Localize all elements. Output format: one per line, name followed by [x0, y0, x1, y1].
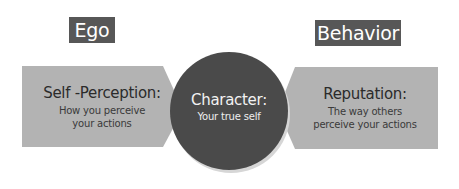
- self-perception-description: How you perceive your actions: [22, 104, 182, 130]
- self-perception-description-line1: How you perceive: [22, 104, 182, 117]
- reputation-text: Reputation: The way others perceive your…: [292, 85, 438, 131]
- reputation-description-line2: perceive your actions: [292, 118, 438, 131]
- behavior-label: Behavior: [315, 20, 401, 46]
- self-perception-title: Self -Perception:: [22, 84, 182, 102]
- self-perception-description-line2: your actions: [22, 117, 182, 130]
- self-perception-text: Self -Perception: How you perceive your …: [22, 84, 182, 130]
- character-title: Character:: [175, 91, 283, 109]
- character-description: Your true self: [175, 110, 283, 123]
- reputation-description: The way others perceive your actions: [292, 105, 438, 131]
- ego-label: Ego: [69, 17, 115, 43]
- character-text: Character: Your true self: [175, 91, 283, 123]
- reputation-description-line1: The way others: [292, 105, 438, 118]
- reputation-title: Reputation:: [292, 85, 438, 103]
- diagram-canvas: Ego Behavior Self -Perception: How you p…: [0, 0, 459, 189]
